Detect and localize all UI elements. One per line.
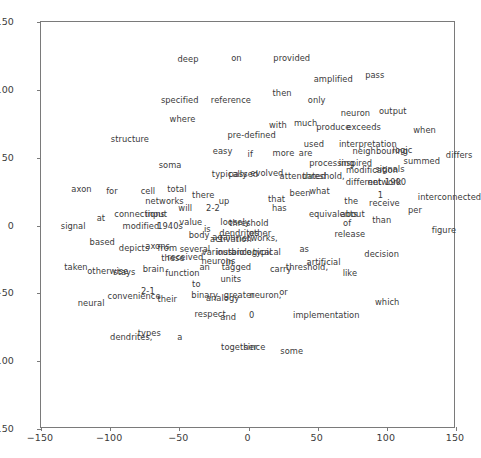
word-point-label: will	[178, 204, 192, 212]
word-point-label: based	[90, 238, 115, 246]
y-axis-tick-label: −100	[0, 355, 14, 366]
x-axis-tick	[179, 427, 180, 431]
word-point-label: a	[177, 333, 182, 341]
x-axis-tick-label: 50	[311, 432, 323, 443]
y-axis-tick	[37, 293, 41, 294]
word-point-label: 1900	[385, 178, 406, 186]
y-axis-tick-label: −50	[0, 287, 14, 298]
word-point-label: implementation	[293, 311, 359, 319]
y-axis-tick	[37, 361, 41, 362]
word-point-label: tagged	[222, 262, 252, 270]
word-point-label: dendrites,	[110, 333, 152, 341]
word-point-label: units	[221, 275, 242, 283]
word-point-label: neuron,	[249, 291, 281, 299]
x-axis-tick-label: 150	[446, 432, 464, 443]
word-point-label: typical	[253, 247, 281, 255]
word-point-label: much	[294, 119, 317, 127]
word-point-label: threshold	[229, 219, 269, 227]
y-axis-tick	[37, 22, 41, 23]
word-point-label: amplified	[314, 75, 353, 83]
word-point-label: exceeds	[346, 123, 380, 131]
word-point-label: has	[272, 204, 287, 212]
word-point-label: threshold,	[286, 262, 328, 270]
word-point-label: reference	[211, 96, 251, 104]
word-point-label: signal	[61, 222, 86, 230]
word-point-label: produce	[316, 123, 350, 131]
word-point-label: figure	[432, 226, 456, 234]
word-point-label: modified	[123, 222, 160, 230]
word-point-label: 0	[249, 311, 254, 319]
word-point-label: neuron	[341, 109, 371, 117]
word-point-label: 1940s	[157, 222, 183, 230]
word-point-label: threshold,	[302, 172, 344, 180]
word-point-label: which	[375, 298, 399, 306]
word-point-label: only	[308, 96, 326, 104]
x-axis-tick-label: −50	[168, 432, 188, 443]
word-point-label: up	[219, 197, 230, 205]
word-point-label: function	[165, 269, 199, 277]
word-point-label: when	[413, 125, 436, 133]
word-point-label: total	[167, 185, 186, 193]
word-point-label: cell	[141, 186, 155, 194]
word-point-label: summed	[404, 157, 440, 165]
y-axis-tick	[37, 158, 41, 159]
word-point-label: at	[97, 214, 105, 222]
word-point-label: axon	[71, 185, 91, 193]
word-point-label: easy	[213, 147, 233, 155]
word-point-label: where	[170, 115, 196, 123]
word-point-label: that	[268, 195, 285, 203]
word-point-label: release	[335, 230, 366, 238]
y-axis-tick-label: 50	[2, 151, 14, 162]
word-point-label: output	[379, 106, 407, 114]
y-axis-tick	[37, 90, 41, 91]
word-point-label: the	[344, 197, 358, 205]
word-point-label: brain	[143, 265, 165, 273]
word-point-label: soma	[159, 161, 182, 169]
word-point-label: signals	[375, 165, 404, 173]
word-point-label: from	[158, 243, 178, 251]
word-point-label: on	[231, 53, 241, 61]
word-point-label: of	[343, 219, 351, 227]
word-point-label: 2-2	[206, 204, 220, 212]
y-axis-tick-label: −150	[0, 423, 14, 434]
word-point-label: their	[157, 295, 177, 303]
word-point-label: pre-defined	[227, 131, 275, 139]
word-point-label: stays	[113, 268, 135, 276]
word-point-label: interconnected	[418, 193, 481, 201]
word-point-label: been	[290, 189, 311, 197]
x-axis-tick	[387, 427, 388, 431]
word-point-label: and	[220, 313, 236, 321]
x-axis-tick	[318, 427, 319, 431]
word-point-label: provided	[273, 53, 310, 61]
y-axis-tick	[37, 429, 41, 430]
word-point-label: there	[192, 190, 214, 198]
word-point-label: if	[248, 150, 253, 158]
y-axis-tick-label: 0	[8, 219, 14, 230]
x-axis-tick-label: 0	[244, 432, 250, 443]
word-point-label: then	[273, 89, 292, 97]
word-point-label: taken	[64, 262, 87, 270]
word-point-label: like	[343, 269, 357, 277]
word-point-label: received	[167, 253, 203, 261]
word-point-label: an	[199, 262, 209, 270]
y-axis-tick	[37, 226, 41, 227]
word-point-label: deep	[178, 55, 199, 63]
x-axis-tick	[456, 427, 457, 431]
y-axis-tick-label: 150	[0, 16, 14, 27]
word-point-label: about	[341, 209, 365, 217]
word-point-label: logic	[393, 146, 413, 154]
word-point-label: receive	[369, 199, 400, 207]
word-point-label: networks,	[237, 234, 278, 242]
x-axis-tick	[110, 427, 111, 431]
word-point-label: or	[279, 288, 288, 296]
x-axis-tick-label: −150	[27, 432, 54, 443]
x-axis-tick	[249, 427, 250, 431]
word-point-label: pass	[365, 71, 384, 79]
y-axis-tick-label: 100	[0, 83, 14, 94]
word-point-label: input	[145, 209, 167, 217]
word-point-label: more	[273, 148, 295, 156]
word-point-label: than	[372, 216, 391, 224]
word-point-label: for	[106, 186, 118, 194]
word-point-label: some	[280, 347, 303, 355]
x-axis-tick-label: −100	[96, 432, 123, 443]
